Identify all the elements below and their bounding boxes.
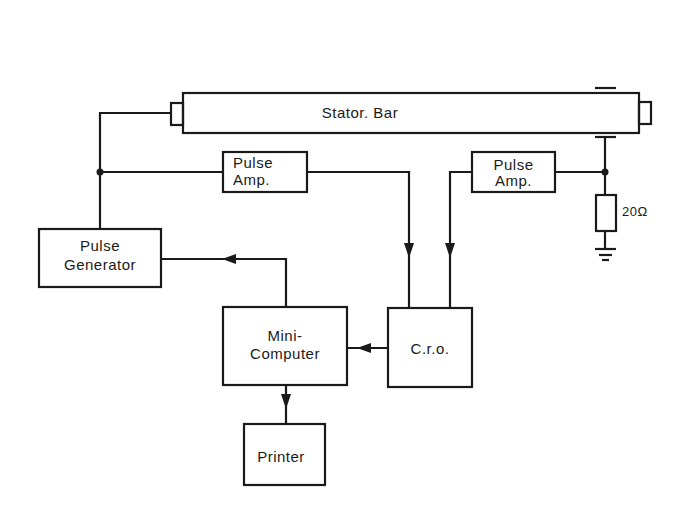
resistor-label: 20Ω [622, 203, 648, 221]
arrow-left-icon [357, 343, 371, 353]
arrow-down-icon [404, 243, 414, 258]
arrow-down-icon [445, 243, 455, 258]
wire-computer-to-generator [161, 259, 286, 307]
cro-label: C.r.o. [388, 340, 472, 358]
arrow-left-icon [222, 254, 236, 264]
pulse-generator-label-1: Pulse [39, 237, 161, 255]
wire-pulse-amp-left-to-cro [307, 172, 409, 307]
wire-pulse-amp-right-to-cro [450, 172, 472, 307]
mini-computer-label-2: Computer [223, 345, 347, 363]
stator-bar-left-terminal [171, 103, 183, 125]
junction-dot-right [602, 169, 609, 176]
mini-computer-label-1: Mini- [223, 327, 347, 345]
printer-label: Printer [244, 448, 318, 466]
stator-bar-label: Stator. Bar [290, 104, 430, 122]
pulse-amp-left-label-2: Amp. [233, 171, 270, 189]
stator-bar-right-terminal [639, 102, 651, 124]
junction-dot-left [97, 169, 104, 176]
pulse-generator-label-2: Generator [39, 256, 161, 274]
resistor-20ohm [596, 195, 616, 231]
pulse-amp-left-label-1: Pulse [233, 154, 273, 172]
arrow-down-icon [281, 394, 291, 409]
pulse-amp-right-label-2: Amp. [472, 172, 555, 190]
